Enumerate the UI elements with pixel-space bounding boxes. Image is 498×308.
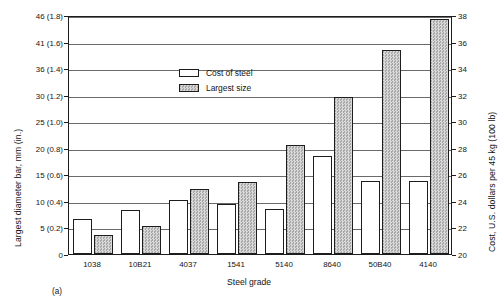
x-axis-title: Steel grade	[0, 277, 498, 287]
bar-cost-of-steel	[361, 181, 380, 254]
x-axis-tick-label: 4037	[179, 260, 197, 269]
y-axis-right-tick-label: 24	[458, 197, 484, 206]
bar-largest-size	[286, 145, 305, 254]
bar-largest-size	[334, 97, 353, 254]
y-axis-left-tick-label: 46 (1.8)	[3, 12, 63, 21]
plot-area: Cost of steel Largest size	[68, 16, 452, 255]
y-axis-right-tick-mark	[452, 69, 456, 70]
x-axis-tick-label: 4140	[419, 260, 437, 269]
y-axis-left-tick-mark	[64, 255, 68, 256]
y-axis-left-tick-label: 15 (0.6)	[3, 171, 63, 180]
bar-cost-of-steel	[409, 181, 428, 254]
bar-largest-size	[94, 235, 113, 254]
legend-swatch-largest-size	[179, 84, 199, 92]
legend-item: Cost of steel	[179, 65, 253, 80]
y-axis-right-tick-label: 28	[458, 144, 484, 153]
bar-largest-size	[430, 19, 449, 254]
y-axis-left-tick-label: 0	[3, 251, 63, 260]
figure-panel: Largest diameter bar, mm (in.) Cost, U.S…	[0, 0, 498, 308]
y-axis-right-tick-mark	[452, 122, 456, 123]
y-axis-right-tick-label: 38	[458, 12, 484, 21]
y-axis-right-tick-mark	[452, 149, 456, 150]
legend-item: Largest size	[179, 80, 253, 95]
bar-cost-of-steel	[121, 210, 140, 254]
y-axis-right-title: Cost, U.S. dollars per 45 kg (100 lb)	[487, 112, 497, 252]
x-axis-tick-label: 5140	[275, 260, 293, 269]
x-axis-tick-label: 1541	[227, 260, 245, 269]
y-axis-left-tick-label: 30 (1.2)	[3, 91, 63, 100]
x-axis-tick-label: 1038	[83, 260, 101, 269]
y-axis-right-tick-mark	[452, 43, 456, 44]
bar-largest-size	[142, 226, 161, 254]
y-axis-right-tick-label: 26	[458, 171, 484, 180]
y-axis-right-tick-mark	[452, 16, 456, 17]
panel-label: (a)	[52, 287, 62, 296]
y-axis-right-tick-label: 22	[458, 224, 484, 233]
bar-cost-of-steel	[73, 219, 92, 254]
legend-label-largest-size: Largest size	[206, 83, 251, 93]
chart-legend: Cost of steel Largest size	[179, 65, 253, 95]
bar-cost-of-steel	[169, 200, 188, 254]
bar-largest-size	[382, 50, 401, 254]
y-axis-left-tick-label: 36 (1.4)	[3, 65, 63, 74]
y-axis-right-tick-mark	[452, 228, 456, 229]
x-axis-tick-label: 10B21	[129, 260, 152, 269]
gridline	[69, 44, 451, 45]
y-axis-right-tick-label: 20	[458, 251, 484, 260]
y-axis-right-tick-mark	[452, 202, 456, 203]
y-axis-left-tick-label: 10 (0.4)	[3, 197, 63, 206]
y-axis-right-tick-label: 30	[458, 118, 484, 127]
y-axis-right-tick-label: 36	[458, 38, 484, 47]
y-axis-right-tick-mark	[452, 96, 456, 97]
y-axis-right-tick-label: 34	[458, 65, 484, 74]
bar-cost-of-steel	[265, 209, 284, 254]
legend-swatch-cost-of-steel	[179, 69, 199, 77]
x-axis-tick-label: 50B40	[369, 260, 392, 269]
y-axis-left-tick-label: 5 (0.2)	[3, 224, 63, 233]
y-axis-right-tick-label: 32	[458, 91, 484, 100]
y-axis-left-tick-label: 20 (0.8)	[3, 144, 63, 153]
bar-largest-size	[238, 182, 257, 254]
gridline	[69, 17, 451, 18]
y-axis-right-tick-mark	[452, 255, 456, 256]
bar-largest-size	[190, 189, 209, 254]
y-axis-right-tick-mark	[452, 175, 456, 176]
x-axis-tick-label: 8640	[323, 260, 341, 269]
bar-cost-of-steel	[313, 156, 332, 254]
legend-label-cost-of-steel: Cost of steel	[206, 68, 253, 78]
y-axis-left-tick-label: 41 (1.6)	[3, 38, 63, 47]
y-axis-left-tick-label: 25 (1.0)	[3, 118, 63, 127]
bar-cost-of-steel	[217, 204, 236, 254]
